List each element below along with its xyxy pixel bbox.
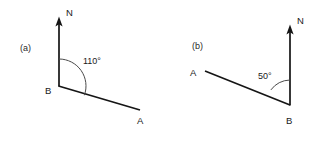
vertex-label-b: B — [286, 115, 292, 126]
diagram-a: (a) N B A 110° — [20, 7, 144, 126]
north-label-a: N — [66, 7, 73, 18]
ray-ba-a — [59, 86, 141, 110]
vertex-label-a: B — [45, 85, 51, 96]
bearings-figure: (a) N B A 110° (b) N B A 50° — [0, 0, 321, 141]
diagram-canvas: (a) N B A 110° (b) N B A 50° — [0, 0, 321, 141]
angle-label-b: 50° — [258, 71, 272, 81]
part-label-b: (b) — [192, 41, 203, 51]
ray-ba-b — [205, 71, 290, 105]
north-label-b: N — [297, 15, 304, 26]
angle-arc-b — [271, 80, 290, 90]
angle-label-a: 110° — [83, 56, 101, 66]
part-label-a: (a) — [20, 43, 31, 53]
endpoint-label-a: A — [137, 115, 144, 126]
diagram-b: (b) N B A 50° — [190, 15, 304, 126]
endpoint-label-b: A — [190, 67, 197, 78]
